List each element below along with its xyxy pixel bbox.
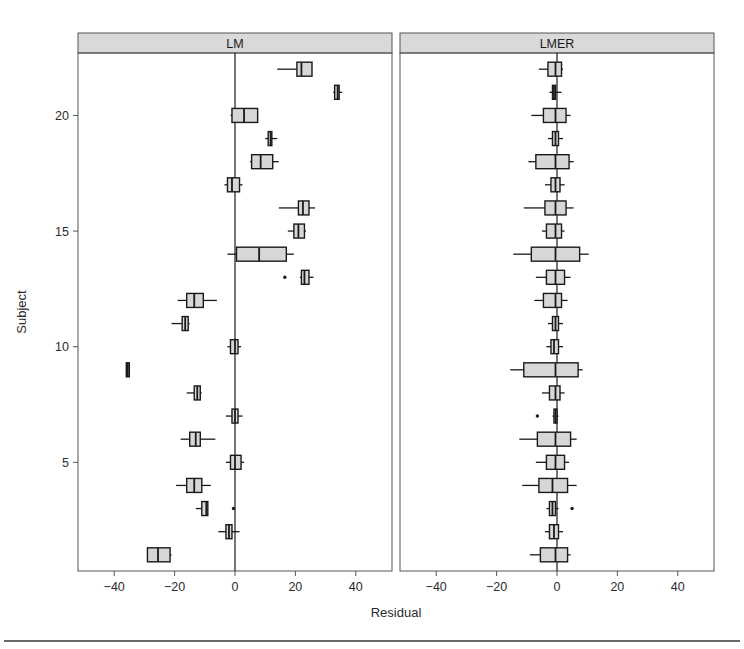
outlier-point: [536, 414, 539, 417]
box-iqr: [237, 247, 287, 261]
boxplot-subject-17: [224, 178, 242, 192]
x-tick-label: 40: [671, 580, 685, 594]
x-tick-label: −40: [426, 580, 447, 594]
box-iqr: [543, 293, 561, 307]
y-tick-label: 5: [62, 456, 69, 470]
outlier-point: [570, 507, 573, 510]
x-tick-label: 20: [288, 580, 302, 594]
plot-canvas: LM−40−20020405101520LMER−40−2002040Resid…: [0, 0, 744, 649]
box-iqr: [227, 178, 239, 192]
x-tick-label: 0: [232, 580, 239, 594]
boxplot-subject-14: [227, 247, 293, 261]
outlier-point: [232, 507, 235, 510]
x-tick-label: −20: [486, 580, 507, 594]
x-tick-label: 20: [610, 580, 624, 594]
y-axis-title: Subject: [14, 290, 29, 334]
box-iqr: [536, 155, 569, 169]
box-iqr: [297, 62, 312, 76]
box-iqr: [252, 155, 273, 169]
y-tick-label: 15: [55, 225, 69, 239]
box-iqr: [537, 432, 570, 446]
y-tick-label: 10: [55, 340, 69, 354]
x-axis-title: Residual: [371, 605, 422, 620]
x-tick-label: −20: [164, 580, 185, 594]
box-iqr: [524, 363, 578, 377]
box-iqr: [546, 224, 561, 238]
y-tick-label: 20: [55, 109, 69, 123]
boxplot-subject-9: [126, 363, 129, 377]
boxplot-figure: LM−40−20020405101520LMER−40−2002040Resid…: [0, 0, 744, 649]
x-tick-label: 0: [554, 580, 561, 594]
boxplot-subject-1: [147, 548, 171, 562]
box-iqr: [540, 548, 567, 562]
boxplot-subject-20: [230, 108, 257, 122]
outlier-point: [283, 276, 286, 279]
x-tick-label: −40: [104, 580, 125, 594]
figure-background: [0, 0, 744, 649]
panel-strip-label-lm: LM: [226, 37, 243, 51]
panel-strip-label-lmer: LMER: [540, 37, 575, 51]
x-tick-label: 40: [349, 580, 363, 594]
